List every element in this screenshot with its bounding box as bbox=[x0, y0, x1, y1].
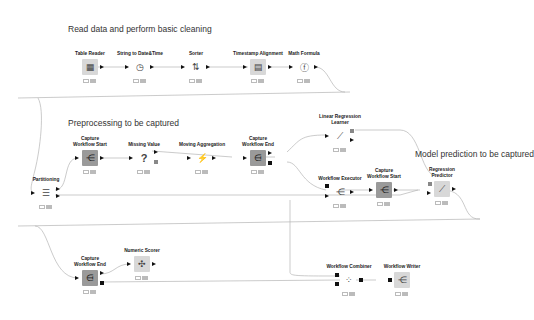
output-port[interactable] bbox=[100, 65, 104, 69]
input-port[interactable] bbox=[125, 65, 129, 69]
node-status bbox=[135, 276, 149, 280]
scorer-icon: ✣ bbox=[134, 256, 150, 272]
workflow-input-port[interactable] bbox=[325, 184, 329, 188]
annotation-preprocessing: Preprocessing to be captured bbox=[68, 118, 179, 128]
output-port-bottom[interactable] bbox=[56, 194, 60, 198]
output-port[interactable] bbox=[154, 150, 158, 154]
input-port[interactable] bbox=[427, 191, 431, 195]
input-port[interactable] bbox=[289, 65, 293, 69]
input-port[interactable] bbox=[187, 156, 191, 160]
annotation-model-prediction: Model prediction to be captured bbox=[415, 149, 534, 159]
aggregation-icon: ⚡ bbox=[194, 150, 210, 166]
output-port[interactable] bbox=[452, 187, 456, 191]
node-status bbox=[251, 79, 265, 83]
workflow-input-port-2[interactable] bbox=[335, 282, 339, 286]
predictor-icon: ⟋ bbox=[434, 181, 450, 197]
node-label: Workflow Writer bbox=[372, 264, 432, 270]
node-label: Sorter bbox=[166, 51, 226, 57]
output-port[interactable] bbox=[206, 65, 210, 69]
node-status bbox=[195, 170, 209, 174]
model-input-port[interactable] bbox=[428, 182, 432, 186]
capture-start-icon: ⋲ bbox=[82, 150, 98, 166]
output-port[interactable] bbox=[212, 156, 216, 160]
model-port[interactable] bbox=[154, 160, 158, 164]
clock-icon: ◷ bbox=[132, 59, 148, 75]
output-port[interactable] bbox=[152, 262, 156, 266]
node-label: Numeric Scorer bbox=[112, 248, 172, 254]
node-status bbox=[342, 292, 356, 296]
input-port[interactable] bbox=[75, 276, 79, 280]
capture-end-icon: ⋳ bbox=[82, 270, 98, 286]
node-status bbox=[297, 79, 311, 83]
workflow-port[interactable] bbox=[268, 161, 272, 165]
capture-start-icon: ⋲ bbox=[376, 182, 392, 198]
input-port[interactable] bbox=[129, 156, 133, 160]
workflow-output-port[interactable] bbox=[359, 278, 363, 282]
node-label: String to Date&Time bbox=[110, 51, 170, 57]
sort-icon: ⇅ bbox=[188, 59, 204, 75]
node-status bbox=[83, 79, 97, 83]
input-port[interactable] bbox=[325, 194, 329, 198]
output-port[interactable] bbox=[350, 190, 354, 194]
node-status bbox=[333, 204, 347, 208]
node-label: Capture Workflow End bbox=[60, 256, 120, 268]
question-icon: ? bbox=[136, 150, 152, 166]
node-label: Math Formula bbox=[274, 51, 334, 57]
node-label: Partitioning bbox=[16, 177, 76, 183]
node-status bbox=[251, 170, 265, 174]
node-status bbox=[133, 79, 147, 83]
capture-end-icon: ⋳ bbox=[250, 150, 266, 166]
output-port[interactable] bbox=[100, 271, 104, 275]
node-label: Capture Workflow Start bbox=[60, 136, 120, 148]
node-status bbox=[377, 202, 391, 206]
calendar-icon: ▤ bbox=[250, 59, 266, 75]
model-port[interactable] bbox=[350, 129, 354, 133]
output-port[interactable] bbox=[350, 138, 354, 142]
node-status bbox=[395, 292, 409, 296]
input-port[interactable] bbox=[31, 191, 35, 195]
output-port[interactable] bbox=[100, 156, 104, 160]
node-status bbox=[333, 148, 347, 152]
output-port[interactable] bbox=[394, 188, 398, 192]
node-label: Workflow Combiner bbox=[319, 264, 379, 270]
writer-icon: ⋲ bbox=[394, 272, 410, 288]
executor-icon: ⋲ bbox=[332, 184, 348, 200]
output-port[interactable] bbox=[268, 151, 272, 155]
node-status bbox=[189, 79, 203, 83]
workflow-input-port[interactable] bbox=[388, 278, 392, 282]
input-port[interactable] bbox=[75, 156, 79, 160]
input-port[interactable] bbox=[325, 134, 329, 138]
node-label: Linear Regression Learner bbox=[310, 114, 370, 126]
workflow-input-port-1[interactable] bbox=[335, 273, 339, 277]
node-status bbox=[39, 205, 53, 209]
formula-icon: ⓕ bbox=[296, 59, 312, 75]
output-port[interactable] bbox=[150, 65, 154, 69]
table-icon: ▦ bbox=[82, 59, 98, 75]
regression-icon: ⟋ bbox=[332, 128, 348, 144]
workflow-port[interactable] bbox=[100, 281, 104, 285]
node-label: Regression Predictor bbox=[412, 167, 472, 179]
partition-icon: ☰ bbox=[38, 185, 54, 201]
input-port[interactable] bbox=[181, 65, 185, 69]
node-label: Missing Value bbox=[114, 142, 174, 148]
combiner-icon: ⁘ bbox=[341, 272, 357, 288]
node-label: Capture Workflow End bbox=[228, 136, 288, 148]
annotation-read-data: Read data and perform basic cleaning bbox=[68, 24, 212, 34]
node-status bbox=[83, 290, 97, 294]
output-port[interactable] bbox=[314, 65, 318, 69]
node-label: Moving Aggregation bbox=[172, 142, 232, 148]
input-port[interactable] bbox=[243, 65, 247, 69]
input-port[interactable] bbox=[243, 156, 247, 160]
input-port[interactable] bbox=[369, 188, 373, 192]
output-port-top[interactable] bbox=[56, 187, 60, 191]
input-port[interactable] bbox=[127, 262, 131, 266]
node-status bbox=[137, 170, 151, 174]
node-status bbox=[435, 201, 449, 205]
output-port[interactable] bbox=[268, 65, 272, 69]
node-label: Capture Workflow Start bbox=[354, 168, 414, 180]
node-status bbox=[83, 170, 97, 174]
